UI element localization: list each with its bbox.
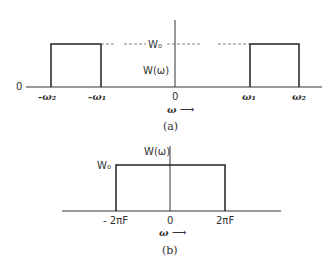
tick-neg-omega2: -ω₂ xyxy=(38,91,57,102)
origin-x-label-b: 0 xyxy=(167,215,173,226)
origin-y-label-a: 0 xyxy=(16,81,22,92)
y-axis-label-a: W(ω) xyxy=(143,65,169,76)
tick-2piF: 2πF xyxy=(216,215,234,226)
caption-b: (b) xyxy=(162,244,178,257)
y-axis-label-b: W(ω) xyxy=(144,146,170,157)
figure-b: W(ω) W₀ - 2πF 0 2πF ω ⟶ (b) xyxy=(62,146,281,257)
x-axis-label-b: ω ⟶ xyxy=(159,227,186,238)
level-label-a: W₀ xyxy=(148,39,162,50)
figure-a: W₀ W(ω) 0 0 -ω₂ -ω₁ ω₁ ω₂ ω ⟶ (a) xyxy=(16,20,322,133)
level-label-b: W₀ xyxy=(97,160,111,171)
band-right xyxy=(250,44,299,87)
tick-omega2: ω₂ xyxy=(292,91,307,102)
origin-x-label-a: 0 xyxy=(172,91,178,102)
caption-a: (a) xyxy=(163,120,178,133)
tick-omega1: ω₁ xyxy=(242,91,256,102)
x-axis-label-a: ω ⟶ xyxy=(167,104,194,115)
band-left xyxy=(51,44,101,87)
tick-neg-omega1: -ω₁ xyxy=(88,91,106,102)
spectral-density-figure: W₀ W(ω) 0 0 -ω₂ -ω₁ ω₁ ω₂ ω ⟶ (a) W(ω) W… xyxy=(0,0,333,267)
tick-neg-2piF: - 2πF xyxy=(103,215,128,226)
